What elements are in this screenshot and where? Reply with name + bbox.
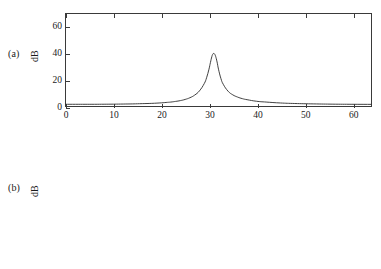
panel-a-curve bbox=[66, 14, 371, 106]
x-tick-mark bbox=[114, 104, 115, 108]
panel-b-y-axis-label: dB bbox=[30, 185, 40, 197]
panel-b-tag: (b) bbox=[8, 183, 20, 193]
panel-a-tag: (a) bbox=[8, 49, 19, 59]
x-tick-label: 10 bbox=[109, 111, 119, 121]
y-tick-label: 40 bbox=[53, 50, 63, 60]
x-tick-label: 60 bbox=[349, 111, 359, 121]
x-tick-mark bbox=[306, 104, 307, 108]
x-tick-label: 0 bbox=[64, 111, 69, 121]
x-tick-mark bbox=[258, 104, 259, 108]
x-tick-mark-top bbox=[162, 14, 163, 18]
x-tick-mark-top bbox=[258, 14, 259, 18]
x-tick-mark-top bbox=[114, 14, 115, 18]
panel-a: (a) dB 02040600102030405060 bbox=[0, 0, 381, 128]
x-tick-label: 40 bbox=[253, 111, 263, 121]
x-tick-mark bbox=[210, 104, 211, 108]
x-tick-mark bbox=[162, 104, 163, 108]
y-tick-mark bbox=[66, 81, 70, 82]
x-tick-label: 30 bbox=[205, 111, 215, 121]
x-tick-mark-top bbox=[354, 14, 355, 18]
y-tick-label: 60 bbox=[53, 23, 63, 33]
x-tick-mark bbox=[354, 104, 355, 108]
panel-a-y-axis-label: dB bbox=[30, 50, 40, 62]
x-tick-mark-top bbox=[210, 14, 211, 18]
y-tick-label: 0 bbox=[57, 103, 62, 113]
y-tick-mark bbox=[66, 54, 70, 55]
x-tick-label: 50 bbox=[301, 111, 311, 121]
y-tick-mark bbox=[66, 108, 70, 109]
x-tick-label: 20 bbox=[157, 111, 167, 121]
y-tick-mark bbox=[66, 27, 70, 28]
x-tick-mark-top bbox=[66, 14, 67, 18]
x-tick-mark-top bbox=[306, 14, 307, 18]
y-tick-label: 20 bbox=[53, 76, 63, 86]
x-tick-mark bbox=[66, 104, 67, 108]
panel-b: (b) dB 02040600102030405060 Frequency, H… bbox=[0, 131, 381, 269]
panel-a-plot-area: 02040600102030405060 bbox=[65, 13, 372, 107]
spectrum-figure: (a) dB 02040600102030405060 (b) dB 02040… bbox=[0, 0, 381, 269]
series-line bbox=[66, 53, 371, 104]
